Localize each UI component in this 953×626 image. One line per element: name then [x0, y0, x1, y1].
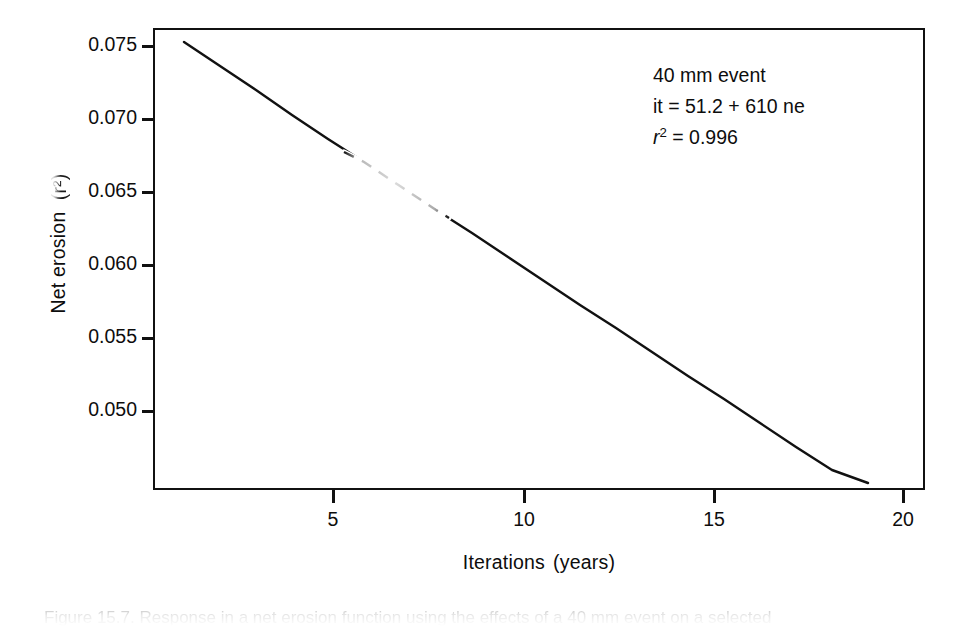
x-axis-label-main: Iterations — [463, 551, 545, 573]
x-tick-mark — [713, 490, 716, 503]
y-axis-label: Net erosion (r²) — [47, 94, 70, 394]
y-tick-mark — [142, 264, 153, 267]
annotation-equation: it = 51.2 + 610 ne — [653, 91, 805, 122]
y-tick-mark — [142, 45, 153, 48]
chart-plot-area — [153, 28, 925, 490]
y-axis-label-unit: (r²) — [48, 174, 71, 201]
annotation-r-squared: r2 = 0.996 — [653, 122, 805, 153]
annotation-event-label: 40 mm event — [653, 60, 805, 91]
y-tick-mark — [142, 337, 153, 340]
y-tick-label: 0.055 — [88, 325, 137, 348]
x-axis-label-unit: (years) — [553, 551, 615, 573]
y-tick-label: 0.050 — [88, 398, 137, 421]
y-tick-mark — [142, 410, 153, 413]
x-tick-label: 10 — [484, 508, 564, 531]
figure-container: Net erosion (r²) 0.075 0.070 0.065 0.060… — [0, 0, 953, 626]
x-tick-label: 20 — [863, 508, 943, 531]
scan-dropout-artifact — [344, 152, 449, 218]
y-tick-label: 0.060 — [88, 252, 137, 275]
y-tick-label: 0.075 — [88, 33, 137, 56]
x-axis-label: Iterations(years) — [153, 551, 925, 574]
figure-caption: Figure 15.7. Response in a net erosion f… — [44, 607, 924, 626]
r-exponent: 2 — [660, 125, 667, 140]
r-value: = 0.996 — [672, 126, 738, 148]
x-tick-label: 15 — [674, 508, 754, 531]
y-tick-mark — [142, 191, 153, 194]
chart-annotation: 40 mm event it = 51.2 + 610 ne r2 = 0.99… — [653, 60, 805, 153]
x-tick-mark — [332, 490, 335, 503]
x-tick-label: 5 — [293, 508, 373, 531]
y-tick-label: 0.070 — [88, 106, 137, 129]
y-tick-label: 0.065 — [88, 179, 137, 202]
y-axis-label-main: Net erosion — [47, 212, 69, 314]
y-tick-mark — [142, 118, 153, 121]
x-tick-mark — [523, 490, 526, 503]
x-tick-mark — [902, 490, 905, 503]
